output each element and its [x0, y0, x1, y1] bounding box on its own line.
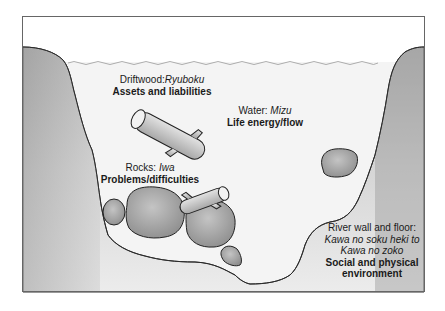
rocks-term: Rocks: [126, 162, 157, 173]
water-japanese: Mizu [270, 105, 291, 116]
river-wall-meaning-1: Social and physical [322, 257, 422, 269]
rock-right [322, 149, 358, 177]
label-river-wall: River wall and floor: Kawa no soku heki … [322, 222, 422, 280]
label-rocks: Rocks: Iwa Problems/difficulties [100, 162, 200, 185]
rock-large [126, 187, 184, 238]
rocks-japanese: Iwa [159, 162, 175, 173]
river-wall-meaning-2: environment [322, 268, 422, 280]
label-driftwood: Driftwood:Ryuboku Assets and liabilities [112, 74, 212, 97]
river-wall-japanese-1: Kawa no soku heki to [322, 234, 422, 246]
water-meaning: Life energy/flow [225, 117, 305, 129]
river-wall-term: River wall and floor: [322, 222, 422, 234]
rocks-meaning: Problems/difficulties [100, 174, 200, 186]
driftwood-japanese: Ryuboku [165, 74, 204, 85]
rock-small-left [103, 199, 125, 225]
label-water: Water: Mizu Life energy/flow [225, 105, 305, 128]
driftwood-meaning: Assets and liabilities [112, 86, 212, 98]
driftwood-term: Driftwood: [120, 74, 165, 85]
river-wall-japanese-2: Kawa no zoko [322, 245, 422, 257]
water-term: Water: [239, 105, 268, 116]
